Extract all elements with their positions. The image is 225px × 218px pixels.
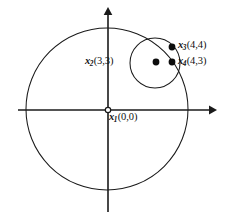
point-marker-x2 bbox=[153, 59, 160, 66]
point-marker-x3 bbox=[169, 44, 176, 51]
figure-canvas bbox=[0, 0, 225, 218]
point-label-x4-subscript: 4 bbox=[183, 59, 187, 68]
point-label-x1-coords: (0,0) bbox=[118, 111, 138, 122]
point-label-x3-coords: (4,4) bbox=[187, 39, 207, 50]
point-label-x1-subscript: 1 bbox=[114, 115, 118, 124]
point-label-x4-coords: (4,3) bbox=[187, 55, 207, 66]
x-axis-arrow-icon bbox=[209, 106, 217, 115]
point-label-x4: x4(4,3) bbox=[178, 56, 206, 67]
point-label-x3-subscript: 3 bbox=[183, 43, 187, 52]
point-marker-x4 bbox=[169, 59, 176, 66]
geometry-figure: x1(0,0) x2(3,3) x3(4,4) x4(4,3) bbox=[0, 0, 225, 218]
point-label-x1: x1(0,0) bbox=[109, 112, 137, 123]
y-axis-arrow-icon bbox=[104, 7, 113, 15]
point-label-x2-coords: (3,3) bbox=[94, 55, 114, 66]
point-label-x3: x3(4,4) bbox=[178, 40, 206, 51]
point-label-x2-subscript: 2 bbox=[90, 59, 94, 68]
point-label-x2: x2(3,3) bbox=[85, 56, 113, 67]
